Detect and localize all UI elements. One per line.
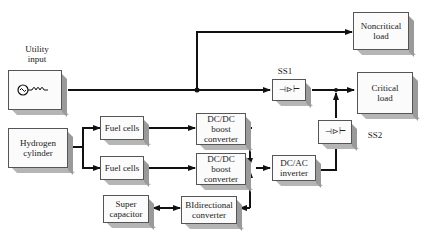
hydrogen-cylinder-box: Hydrogen cylinder — [8, 128, 68, 168]
dcdc-boost-converter-box-1: DC/DC boost converter — [196, 113, 246, 145]
ss1-switch-box: ⊣⊳⊢ — [272, 79, 306, 101]
fuel-cells-box-2: Fuel cells — [100, 156, 144, 180]
fuel-cells-box-1: Fuel cells — [100, 116, 144, 140]
ac-source-icon — [15, 82, 55, 98]
ss2-label: SS2 — [360, 130, 390, 140]
dcdc-boost-converter-box-2: DC/DC boost converter — [196, 153, 246, 185]
critical-load-box: Critical load — [357, 72, 413, 114]
static-switch-icon: ⊣⊳⊢ — [279, 85, 300, 95]
dcac-inverter-box: DC/AC inverter — [272, 155, 316, 181]
utility-input-box — [8, 70, 62, 110]
ss2-switch-box: ⊣⊳⊢ — [318, 120, 352, 144]
super-capacitor-box: Super capacitor — [103, 195, 149, 223]
utility-input-label: Utility input — [12, 44, 62, 64]
bidirectional-converter-box: BIdirectional converter — [181, 196, 237, 224]
static-switch-icon: ⊣⊳⊢ — [325, 127, 346, 137]
noncritical-load-box: Noncritical load — [353, 12, 409, 50]
ss1-label: SS1 — [270, 66, 300, 76]
